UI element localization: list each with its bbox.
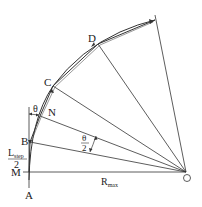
label-rmax: Rmax	[101, 176, 118, 188]
label-b: B	[21, 135, 28, 147]
half-theta-arrowhead-bottom	[89, 148, 93, 152]
label-a: A	[25, 189, 33, 201]
label-lstep-den: 2	[14, 159, 19, 170]
label-n: N	[48, 106, 56, 118]
label-theta: θ	[33, 103, 38, 114]
label-lstep: Lstep	[8, 147, 24, 159]
label-half-theta-num: θ	[82, 133, 86, 143]
label-c: C	[44, 76, 51, 88]
geometry-diagram: A M B N C D θ θ 2 Lstep 2 Rmax O	[0, 0, 202, 207]
radius-end-o	[155, 15, 186, 172]
theta-arrowhead-left	[29, 113, 32, 116]
radius-d-o	[98, 44, 186, 172]
label-half-theta-den: 2	[82, 143, 87, 153]
point-o-marker	[184, 175, 191, 182]
label-d: D	[88, 32, 96, 44]
rmax-sub: max	[108, 182, 118, 188]
